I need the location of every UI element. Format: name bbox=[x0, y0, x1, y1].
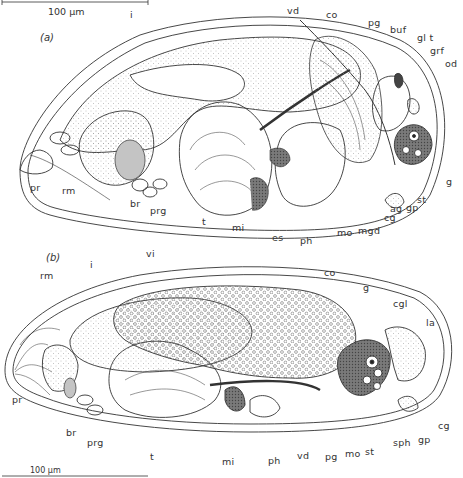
label-b-st: st bbox=[365, 447, 374, 457]
label-b-prg: prg bbox=[87, 438, 104, 448]
label-b-rm: rm bbox=[40, 271, 54, 281]
scale-label-top: 100 µm bbox=[48, 6, 84, 17]
label-a-i: i bbox=[130, 10, 133, 20]
label-a-ag: ag bbox=[390, 204, 402, 214]
label-b-g: g bbox=[363, 283, 369, 293]
label-b-vi: vi bbox=[146, 249, 155, 259]
scale-bar-top bbox=[2, 0, 148, 5]
panel-b-label: (b) bbox=[46, 252, 60, 263]
label-b-la: la bbox=[426, 318, 435, 328]
label-a-od: od bbox=[445, 59, 457, 69]
label-a-es: es bbox=[272, 233, 283, 243]
label-a-ph: ph bbox=[300, 236, 313, 246]
panel-a-drawing bbox=[20, 17, 445, 238]
label-a-grf: grf bbox=[430, 46, 444, 56]
panel-b-drawing bbox=[5, 267, 452, 432]
label-a-mgd: mgd bbox=[358, 226, 380, 236]
label-b-ph: ph bbox=[268, 456, 281, 466]
label-a-pr: pr bbox=[30, 183, 41, 193]
label-a-cg: cg bbox=[384, 213, 396, 223]
label-a-g: g bbox=[446, 177, 452, 187]
label-b-vd: vd bbox=[297, 451, 309, 461]
label-b-cgl: cgl bbox=[393, 299, 408, 309]
label-b-pg: pg bbox=[325, 452, 338, 462]
label-b-mo: mo bbox=[345, 449, 361, 459]
label-a-mi: mi bbox=[232, 223, 245, 233]
panel-a-label: (a) bbox=[40, 32, 54, 43]
label-a-prg: prg bbox=[150, 206, 167, 216]
label-b-sph: sph bbox=[393, 438, 411, 448]
label-b-t: t bbox=[150, 452, 154, 462]
label-a-br: br bbox=[130, 199, 141, 209]
label-b-cg: cg bbox=[438, 421, 450, 431]
label-a-rm: rm bbox=[62, 186, 76, 196]
label-a-buf: buf bbox=[390, 25, 406, 35]
label-a-mo: mo bbox=[337, 228, 353, 238]
label-b-i: i bbox=[90, 260, 93, 270]
label-b-mi: mi bbox=[222, 457, 235, 467]
anatomical-figure bbox=[0, 0, 463, 478]
label-a-vd: vd bbox=[287, 6, 299, 16]
label-a-pg: pg bbox=[368, 18, 381, 28]
label-a-glt: gl t bbox=[417, 33, 434, 43]
scale-label-bottom: 100 µm bbox=[30, 466, 61, 475]
label-b-co: co bbox=[324, 268, 336, 278]
label-a-co: co bbox=[326, 10, 338, 20]
label-a-st: st bbox=[417, 195, 426, 205]
label-a-t: t bbox=[202, 217, 206, 227]
label-b-pr: pr bbox=[12, 395, 23, 405]
label-b-gp: gp bbox=[418, 435, 431, 445]
label-b-br: br bbox=[66, 428, 77, 438]
